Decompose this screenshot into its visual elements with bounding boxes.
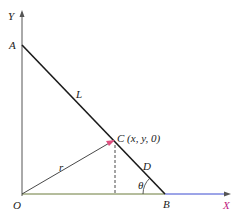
x-axis-arrow-icon [224,192,231,197]
angle-arc [143,178,150,194]
vector-r [22,142,111,194]
y-axis-label: Y [8,11,14,22]
angle-theta-label: θ [138,180,143,191]
origin-label: O [13,200,21,211]
vector-r-label: r [59,162,63,173]
x-axis-label: X [223,200,230,211]
y-axis-arrow-icon [20,10,25,17]
segment-d-label: D [143,161,151,172]
diagram-canvas [0,0,245,223]
diagram: Y A L C (x, y, 0) r D θ O B X [0,0,245,223]
point-b-label: B [163,199,170,210]
vector-arrow-icon [106,140,115,146]
segment-l-label: L [76,89,82,100]
point-c-label: C (x, y, 0) [117,133,160,144]
point-a-label: A [9,40,16,51]
